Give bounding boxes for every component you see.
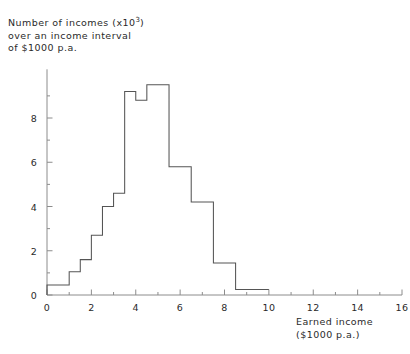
x-tick-label: 8 [221, 302, 227, 313]
plot-area [0, 0, 410, 354]
x-tick-label: 2 [88, 302, 94, 313]
y-tick-label: 6 [31, 157, 37, 168]
histogram-step-line [47, 85, 269, 295]
x-tick-label: 4 [133, 302, 139, 313]
x-tick-label: 12 [307, 302, 320, 313]
tick-marks [47, 96, 402, 295]
x-tick-label: 0 [44, 302, 50, 313]
y-tick-label: 0 [31, 290, 37, 301]
x-tick-label: 14 [351, 302, 364, 313]
y-tick-label: 4 [31, 201, 37, 212]
x-tick-label: 16 [396, 302, 409, 313]
x-tick-label: 6 [177, 302, 183, 313]
axes [47, 69, 402, 295]
histogram-chart: Number of incomes (x103) over an income … [0, 0, 410, 354]
y-tick-label: 2 [31, 245, 37, 256]
x-tick-label: 10 [262, 302, 275, 313]
y-tick-label: 8 [31, 113, 37, 124]
